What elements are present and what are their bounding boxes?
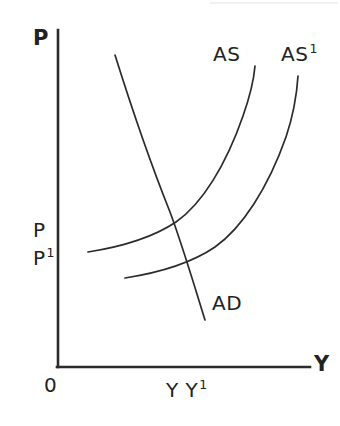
price-level-p1-superscript: 1 <box>47 245 55 260</box>
ad-curve-label: AD <box>212 293 242 313</box>
price-level-p1-text: P <box>33 246 46 270</box>
x-axis-label: Y <box>314 354 330 375</box>
price-level-label-p: P <box>33 220 46 240</box>
output-level-y1-superscript: 1 <box>199 377 207 392</box>
y-axis-label: P <box>33 28 49 49</box>
ad-curve <box>115 55 205 320</box>
as-curve <box>88 66 255 252</box>
as1-curve-label-superscript: 1 <box>309 41 317 56</box>
output-level-labels: Y Y1 <box>166 380 208 400</box>
output-level-y1-text: Y <box>186 378 199 402</box>
output-level-y-text: Y <box>166 378 179 402</box>
price-level-label-p1: P1 <box>33 248 55 268</box>
origin-label: 0 <box>44 375 57 395</box>
as1-curve-label-text: AS <box>281 42 308 66</box>
as1-curve <box>125 76 298 278</box>
ad-curve-label-text: AD <box>212 291 242 315</box>
price-level-p-text: P <box>33 218 46 242</box>
as-ad-diagram: P Y 0 P P1 Y Y1 AS AS1 AD <box>0 0 340 426</box>
as-curve-label-text: AS <box>213 42 240 66</box>
as-curve-label: AS <box>213 44 240 64</box>
as1-curve-label: AS1 <box>281 44 318 64</box>
